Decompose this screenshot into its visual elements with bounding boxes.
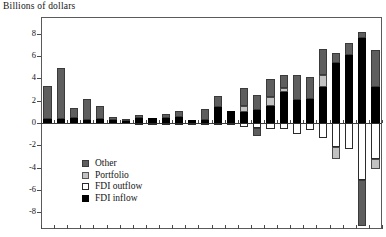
bar-segment-fdi-inflow [293,100,301,123]
y-axis-label: 0 [14,118,36,127]
bar-segment-fdi-inflow [109,120,117,123]
y-axis-tick [37,123,41,124]
legend-item-other: Other [82,158,142,170]
legend-item-label: FDI outflow [95,182,142,192]
x-axis-tick [159,225,160,229]
bar-segment-fdi-inflow [96,119,104,123]
bar-segment-other [293,75,301,100]
bar-segment-other-neg [253,128,261,136]
bar-segment-portfolio [319,75,327,87]
x-axis-tick [198,225,199,229]
bar-segment-portfolio [266,97,274,105]
bar-segment-other [345,43,353,55]
chart-title: Billions of dollars [3,1,75,11]
zero-axis-line [41,123,382,124]
bar-segment-portfolio-neg [371,159,379,169]
legend-item-label: FDI inflow [95,194,138,204]
bar-segment-other [319,49,327,75]
bar-segment-other-neg [358,180,366,226]
y-axis-label: 4 [14,73,36,82]
x-axis-tick [120,225,121,229]
x-axis-tick-zeroline [146,120,147,123]
x-axis-tick-zeroline [67,120,68,123]
x-axis-tick [80,225,81,229]
x-axis-tick-zeroline [54,120,55,123]
bar-segment-fdi-inflow [227,111,235,123]
bar-segment-other [332,53,340,63]
y-axis-label: -8 [14,207,36,216]
bar-segment-fdi-inflow [319,87,327,123]
y-axis-tick [37,78,41,79]
bar-segment-portfolio [240,106,248,112]
bar-segment-fdi-inflow [240,112,248,123]
x-axis-tick-zeroline [316,120,317,123]
bar-segment-fdi-outflow [148,123,156,125]
x-axis-tick [343,225,344,229]
x-axis-tick [212,225,213,229]
x-axis-tick-zeroline [93,120,94,123]
x-axis-tick [251,225,252,229]
chart-container: Billions of dollars 86420-2-4-6-8 OtherP… [0,0,386,237]
y-axis-tick [37,34,41,35]
bar-segment-other [306,77,314,99]
x-axis-tick [238,225,239,229]
x-axis-tick-zeroline [225,120,226,123]
x-axis-tick-zeroline [159,120,160,123]
bar-segment-fdi-outflow [162,123,170,125]
bar-segment-fdi-inflow [332,63,340,123]
x-axis-tick [67,225,68,229]
x-axis-tick-zeroline [212,120,213,123]
bar-segment-other [201,109,209,120]
bar-segment-fdi-inflow [43,119,51,123]
y-axis-label: 6 [14,51,36,60]
bar-segment-fdi-inflow [306,99,314,123]
x-axis-tick [133,225,134,229]
bar-segment-other [214,96,222,107]
bar-segment-other [96,106,104,119]
bar-segment-other [253,95,261,111]
y-axis-label: 8 [14,29,36,38]
legend-swatch-icon [82,195,89,202]
y-axis-tick [37,145,41,146]
bar-segment-other [83,99,91,120]
bar-segment-fdi-outflow [266,123,274,129]
x-axis-tick [225,225,226,229]
x-axis-tick [290,225,291,229]
x-axis-tick-zeroline [356,120,357,123]
bar-segment-other [358,32,366,38]
y-axis-tick [37,168,41,169]
bar-segment-fdi-inflow [57,119,65,123]
x-axis-tick [330,225,331,229]
bar-segment-fdi-outflow [345,123,353,149]
bar-segment-fdi-outflow [135,123,143,125]
x-axis-tick [107,225,108,229]
bar-segment-portfolio-neg [332,147,340,159]
bar-segment-other [371,50,379,86]
x-axis-tick [93,225,94,229]
bar-segment-fdi-inflow [253,110,261,123]
x-axis-tick [277,225,278,229]
bar-segment-other [122,119,130,122]
bar-segment-other [175,111,183,117]
x-axis-tick-zeroline [198,120,199,123]
bar-segment-other [70,108,78,118]
bar-segment-fdi-inflow [358,38,366,123]
y-axis-label: -2 [14,140,36,149]
bar-segment-fdi-outflow [358,123,366,180]
x-axis-tick [369,225,370,229]
bar-segment-other [240,88,248,106]
x-axis-tick [185,225,186,229]
bar-segment-fdi-outflow [293,123,301,134]
x-axis-tick [382,225,383,229]
x-axis-tick-zeroline [369,120,370,123]
bar-segment-fdi-outflow [175,123,183,125]
bar-segment-fdi-inflow [280,92,288,123]
legend-item-label: Other [95,159,117,169]
y-axis-tick [37,190,41,191]
bar-segment-fdi-inflow [266,106,274,123]
x-axis-tick-zeroline [41,120,42,123]
bar-segment-fdi-outflow [201,123,209,125]
y-axis-label: 2 [14,96,36,105]
x-axis-tick-zeroline [382,120,383,123]
bar-segment-fdi-outflow [227,123,235,125]
